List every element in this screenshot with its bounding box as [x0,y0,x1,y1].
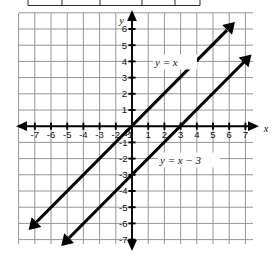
x-tick-label: -6 [47,129,55,140]
x-tick-label: 7 [243,129,248,140]
equation-label-y-equals-x-group: y = x [153,55,197,70]
y-tick-label: 5 [122,40,127,51]
x-axis-tick-labels: -7 -6 -5 -4 -3 -2 -1 1 2 3 4 5 6 7 [31,129,248,140]
x-tick-label: 3 [178,129,183,140]
x-tick-label: 5 [210,129,215,140]
y-tick-label: 1 [122,104,127,115]
x-tick-label: 6 [227,129,232,140]
x-tick-label: -3 [95,129,103,140]
x-tick-label: -5 [63,129,71,140]
y-tick-label: 3 [122,72,127,83]
coordinate-plane-graph: -7 -6 -5 -4 -3 -2 -1 1 2 3 4 5 6 7 6 5 4… [0,0,277,256]
y-axis-name-label: y [118,15,124,26]
x-axis-name-label: x [263,123,269,134]
y-tick-label: 2 [122,88,127,99]
y-tick-label: -6 [119,218,127,229]
equation-label-y-equals-x: y = x [154,56,178,68]
y-tick-label: 4 [122,56,127,67]
equation-label-y-equals-x-minus-3: y = x − 3 [159,154,202,166]
plot-line-y-equals-x-minus-3 [61,55,251,247]
y-tick-label: -7 [119,234,127,245]
x-tick-label: -4 [79,129,87,140]
y-tick-label: -2 [119,153,127,164]
table-fragment [28,0,200,6]
x-tick-label: -7 [31,129,39,140]
equation-label-y-equals-x-minus-3-group: y = x − 3 [158,153,220,168]
x-tick-label: 4 [194,129,199,140]
x-tick-label: 2 [162,129,167,140]
x-tick-label: 1 [146,129,151,140]
y-tick-label: -5 [119,202,127,213]
graph-figure: -7 -6 -5 -4 -3 -2 -1 1 2 3 4 5 6 7 6 5 4… [0,0,277,256]
